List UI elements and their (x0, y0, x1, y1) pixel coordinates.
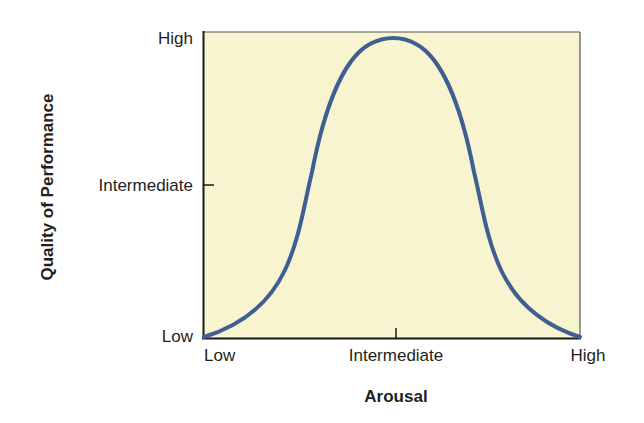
y-axis-title: Quality of Performance (38, 93, 57, 280)
x-tick-label-low: Low (204, 346, 236, 365)
inverted-u-chart: High Intermediate Low Low Intermediate H… (0, 0, 644, 423)
y-tick-label-high: High (158, 29, 193, 48)
x-tick-label-high: High (571, 346, 606, 365)
plot-area (203, 32, 580, 338)
x-tick-label-intermediate: Intermediate (349, 346, 444, 365)
y-tick-label-low: Low (162, 327, 194, 346)
y-tick-label-intermediate: Intermediate (99, 176, 194, 195)
x-axis-title: Arousal (364, 387, 427, 406)
